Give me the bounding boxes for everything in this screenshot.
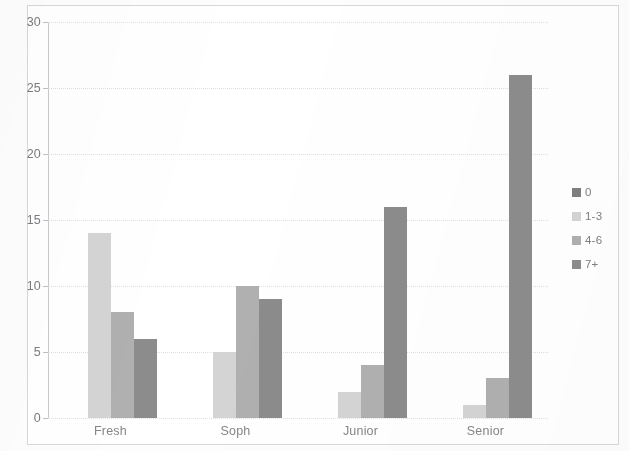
y-axis-tickmark xyxy=(43,22,48,23)
y-axis-tickmark xyxy=(43,418,48,419)
y-axis-tick-label: 5 xyxy=(34,345,41,359)
bar-group xyxy=(190,22,282,418)
bar xyxy=(134,339,157,418)
bar-fill xyxy=(486,378,509,418)
legend-swatch-icon xyxy=(572,236,581,245)
bar-fill xyxy=(361,365,384,418)
legend-label: 0 xyxy=(585,186,592,198)
legend-label: 7+ xyxy=(585,258,599,270)
bar-fill xyxy=(338,392,361,418)
y-axis-tickmark xyxy=(43,154,48,155)
x-axis-tick-label: Fresh xyxy=(94,424,127,438)
y-axis-tick-label: 0 xyxy=(34,411,41,425)
bar-chart: 051015202530 FreshSophJuniorSenior 01-34… xyxy=(0,0,629,451)
x-axis-tick-label: Senior xyxy=(467,424,504,438)
bar xyxy=(361,365,384,418)
bar xyxy=(213,352,236,418)
x-axis-tick-labels: FreshSophJuniorSenior xyxy=(48,424,548,446)
bar-fill xyxy=(463,405,486,418)
bar-fill xyxy=(259,299,282,418)
legend-item: 4-6 xyxy=(572,230,620,250)
legend-swatch-icon xyxy=(572,212,581,221)
bar-group xyxy=(440,22,532,418)
y-axis-tickmark xyxy=(43,220,48,221)
bar xyxy=(259,299,282,418)
x-axis-tick-label: Junior xyxy=(343,424,378,438)
bar-fill xyxy=(213,352,236,418)
y-axis-tick-label: 25 xyxy=(27,81,41,95)
bar xyxy=(384,207,407,418)
legend-item: 7+ xyxy=(572,254,620,274)
bar-group xyxy=(315,22,407,418)
bar-group xyxy=(65,22,157,418)
y-axis-tick-label: 10 xyxy=(27,279,41,293)
legend-item: 1-3 xyxy=(572,206,620,226)
plot-area xyxy=(48,22,548,418)
bar xyxy=(338,392,361,418)
bar xyxy=(463,405,486,418)
legend-label: 4-6 xyxy=(585,234,602,246)
bar-fill xyxy=(384,207,407,418)
bar xyxy=(486,378,509,418)
legend-swatch-icon xyxy=(572,260,581,269)
bar-fill xyxy=(509,75,532,418)
bar xyxy=(88,233,111,418)
legend-swatch-icon xyxy=(572,188,581,197)
y-axis-tickmark xyxy=(43,88,48,89)
bar-fill xyxy=(111,312,134,418)
y-axis-tick-label: 15 xyxy=(27,213,41,227)
y-axis-tick-label: 20 xyxy=(27,147,41,161)
x-axis-tick-label: Soph xyxy=(221,424,251,438)
bar xyxy=(236,286,259,418)
bar xyxy=(509,75,532,418)
legend-item: 0 xyxy=(572,182,620,202)
gridline xyxy=(48,418,548,419)
y-axis-tickmark xyxy=(43,352,48,353)
chart-legend: 01-34-67+ xyxy=(572,182,620,278)
y-axis-tick-label: 30 xyxy=(27,15,41,29)
y-axis-tickmark xyxy=(43,286,48,287)
bar-fill xyxy=(236,286,259,418)
bar xyxy=(111,312,134,418)
bar-fill xyxy=(88,233,111,418)
bar-fill xyxy=(134,339,157,418)
y-axis-tick-labels: 051015202530 xyxy=(0,22,41,418)
legend-label: 1-3 xyxy=(585,210,602,222)
